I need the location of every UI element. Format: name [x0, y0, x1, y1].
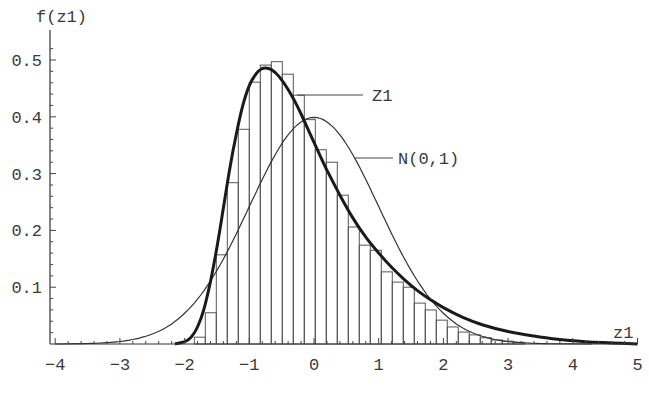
histogram-bar	[205, 313, 216, 344]
x-tick-label: −4	[45, 356, 65, 375]
histogram-bar	[304, 120, 315, 344]
normal-label: N(0,1)	[398, 150, 459, 169]
histogram-bar	[348, 227, 359, 344]
histogram-bar	[414, 303, 425, 344]
x-tick-label: 1	[374, 356, 384, 375]
histogram-bar	[194, 337, 205, 344]
annotation-normal: N(0,1)	[354, 150, 459, 169]
y-tick-label: 0.5	[11, 52, 42, 71]
y-tick-label: 0.4	[11, 109, 42, 128]
x-tick-label: 2	[438, 356, 448, 375]
histogram-bar	[381, 272, 392, 344]
y-tick-label: 0.2	[11, 222, 42, 241]
histogram-bar	[260, 65, 271, 344]
histogram-bar	[282, 74, 293, 344]
histogram-bar	[392, 282, 403, 344]
histogram-bar	[238, 129, 249, 344]
histogram-bar	[425, 310, 436, 344]
histogram-bar	[227, 183, 238, 344]
x-tick-label: 4	[568, 356, 578, 375]
histogram-bar	[271, 62, 282, 344]
z1-density-curve	[175, 68, 638, 344]
x-tick-label: −3	[110, 356, 130, 375]
y-axis-ticks: 0.10.20.30.40.5	[11, 49, 56, 333]
histogram-bar	[249, 82, 260, 344]
density-histogram-chart: −4−3−2−1012345 0.10.20.30.40.5 f(z1) z1 …	[0, 0, 649, 396]
x-axis-title: z1	[613, 324, 633, 343]
density-curves	[55, 68, 637, 344]
z1-label: Z1	[372, 87, 392, 106]
x-tick-label: 5	[632, 356, 642, 375]
histogram-bar	[293, 95, 304, 344]
annotation-z1: Z1	[297, 87, 392, 106]
histogram-bar	[458, 332, 469, 344]
axes: −4−3−2−1012345 0.10.20.30.40.5	[11, 30, 642, 375]
x-tick-label: 3	[503, 356, 513, 375]
histogram-bar	[469, 335, 480, 344]
histogram-bar	[315, 150, 326, 344]
histogram-bar	[436, 320, 447, 344]
x-tick-label: −2	[174, 356, 194, 375]
histogram-bar	[359, 245, 370, 344]
histogram-bar	[370, 250, 381, 344]
normal-density-curve	[55, 117, 592, 344]
x-tick-label: −1	[239, 356, 259, 375]
x-tick-label: 0	[309, 356, 319, 375]
histogram-bar	[403, 287, 414, 344]
y-axis-title: f(z1)	[36, 8, 87, 27]
histogram-bar	[337, 195, 348, 344]
y-tick-label: 0.3	[11, 166, 42, 185]
y-tick-label: 0.1	[11, 279, 42, 298]
